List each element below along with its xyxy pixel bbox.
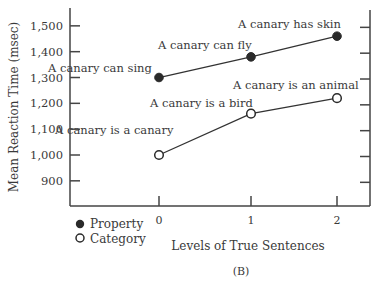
open-circle-icon [76, 234, 84, 242]
x-tick-label: 1 [248, 214, 255, 227]
legend-label-category: Category [90, 232, 146, 246]
open-circle-marker [333, 94, 342, 103]
figure-caption: (B) [233, 265, 250, 278]
point-annotation: A canary is an animal [232, 78, 359, 92]
y-tick-label: 900 [41, 174, 63, 188]
point-annotation: A canary has skin [237, 17, 342, 31]
point-annotation: A canary is a canary [54, 123, 174, 137]
point-annotation: A canary can sing [47, 61, 153, 75]
point-annotation: A canary can fly [157, 38, 252, 52]
y-tick-label: 1,000 [30, 148, 63, 162]
legend: Property Category [76, 217, 146, 246]
x-tick-label: 2 [334, 214, 341, 227]
open-circle-marker [247, 109, 256, 118]
filled-circle-marker [333, 32, 342, 41]
open-circle-marker [155, 151, 164, 160]
y-axis-label: Mean Reaction Time (msec) [7, 22, 21, 192]
reaction-time-chart: 9001,0001,1001,2001,3001,4001,500 012 A … [0, 0, 375, 285]
filled-circle-marker [155, 73, 164, 82]
filled-circle-marker [247, 53, 256, 62]
x-tick-label: 0 [156, 214, 163, 227]
y-tick-label: 1,200 [30, 96, 63, 110]
y-tick-label: 1,400 [30, 45, 63, 59]
legend-label-property: Property [90, 217, 143, 231]
series-group: A canary can singA canary can flyA canar… [47, 17, 359, 159]
series-property: A canary can singA canary can flyA canar… [47, 17, 342, 82]
x-ticks: 012 [156, 196, 341, 227]
filled-circle-icon [76, 220, 84, 228]
y-tick-label: 1,500 [30, 19, 63, 33]
point-annotation: A canary is a bird [149, 96, 253, 110]
series-category: A canary is a canaryA canary is a birdA … [54, 78, 359, 159]
x-axis-label: Levels of True Sentences [171, 239, 324, 253]
